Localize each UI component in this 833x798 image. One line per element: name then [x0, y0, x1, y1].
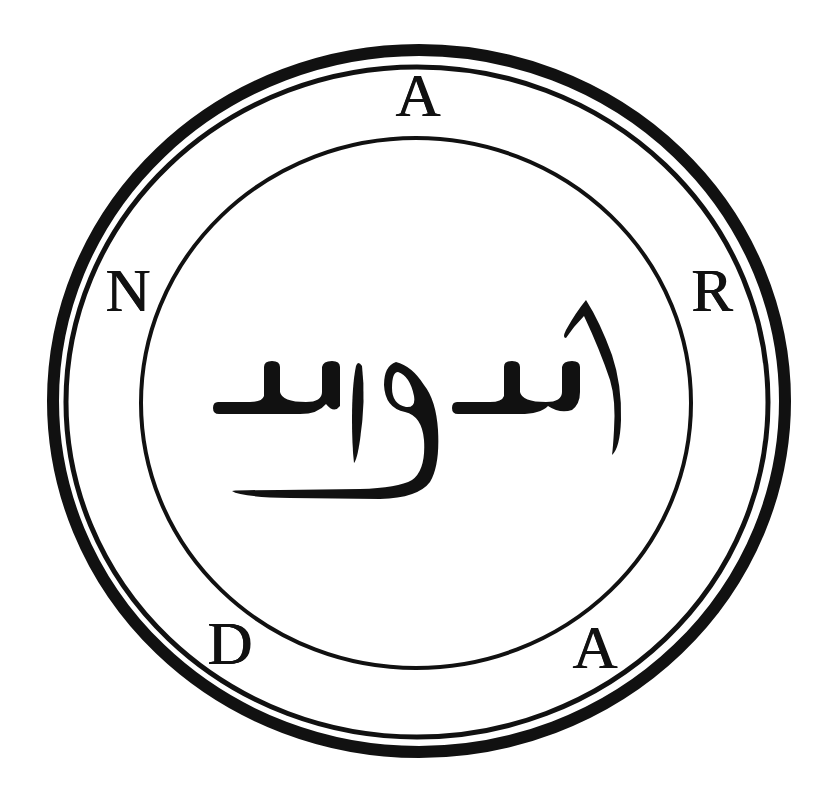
letter-upper-right-r: R — [691, 259, 732, 321]
letter-upper-left-n: N — [106, 259, 151, 321]
letter-top-a: A — [396, 64, 441, 126]
letter-lower-left-d: D — [208, 612, 253, 674]
letter-lower-right-a: A — [573, 616, 618, 678]
